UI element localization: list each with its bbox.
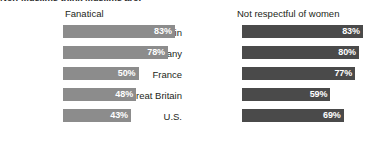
bar-track: 43% bbox=[63, 109, 186, 122]
clipped-headline: Non-Muslims think Muslims are: bbox=[0, 0, 230, 3]
panel-title-not-respectful-of-women: Not respectful of women bbox=[237, 8, 339, 19]
clipped-headline-text: Non-Muslims think Muslims are: bbox=[0, 0, 230, 3]
table-row: France 77% bbox=[195, 67, 375, 83]
bar: 59% bbox=[242, 88, 330, 101]
bar-value-label: 83% bbox=[342, 25, 360, 38]
bar: 69% bbox=[242, 109, 344, 122]
bar-track: 48% bbox=[63, 88, 186, 101]
bar: 78% bbox=[63, 46, 168, 59]
bar-value-label: 59% bbox=[310, 88, 328, 101]
bar-track: 78% bbox=[63, 46, 186, 59]
table-row: Great Britain 59% bbox=[195, 88, 375, 104]
bar: 83% bbox=[63, 25, 175, 38]
bar-value-label: 69% bbox=[323, 109, 341, 122]
table-row: Germany 78% bbox=[0, 46, 186, 62]
bar: 77% bbox=[242, 67, 355, 80]
bar: 83% bbox=[242, 25, 363, 38]
chart-figure: Non-Muslims think Muslims are: Fanatical… bbox=[0, 0, 375, 154]
bar-value-label: 80% bbox=[338, 46, 356, 59]
bar-track: 77% bbox=[242, 67, 375, 80]
bar-value-label: 77% bbox=[334, 67, 352, 80]
bar-value-label: 83% bbox=[154, 25, 172, 38]
table-row: U.S. 43% bbox=[0, 109, 186, 125]
bar-value-label: 43% bbox=[110, 109, 128, 122]
bar-track: 83% bbox=[63, 25, 186, 38]
table-row: Great Britain 48% bbox=[0, 88, 186, 104]
bar: 80% bbox=[242, 46, 359, 59]
panel-title-fanatical: Fanatical bbox=[65, 8, 104, 19]
bar-track: 59% bbox=[242, 88, 375, 101]
bar-rows-not-respectful-of-women: Spain 83% Germany 80% France bbox=[195, 25, 375, 125]
table-row: Spain 83% bbox=[195, 25, 375, 41]
table-row: Spain 83% bbox=[0, 25, 186, 41]
bar-track: 69% bbox=[242, 109, 375, 122]
bar-value-label: 78% bbox=[147, 46, 165, 59]
bar: 48% bbox=[63, 88, 136, 101]
bar-track: 50% bbox=[63, 67, 186, 80]
table-row: Germany 80% bbox=[195, 46, 375, 62]
table-row: U.S. 69% bbox=[195, 109, 375, 125]
bar-value-label: 50% bbox=[118, 67, 136, 80]
bar-rows-fanatical: Spain 83% Germany 78% France bbox=[0, 25, 186, 125]
bar-value-label: 48% bbox=[115, 88, 133, 101]
bar-track: 83% bbox=[242, 25, 375, 38]
table-row: France 50% bbox=[0, 67, 186, 83]
bar: 43% bbox=[63, 109, 131, 122]
bar: 50% bbox=[63, 67, 139, 80]
bar-track: 80% bbox=[242, 46, 375, 59]
